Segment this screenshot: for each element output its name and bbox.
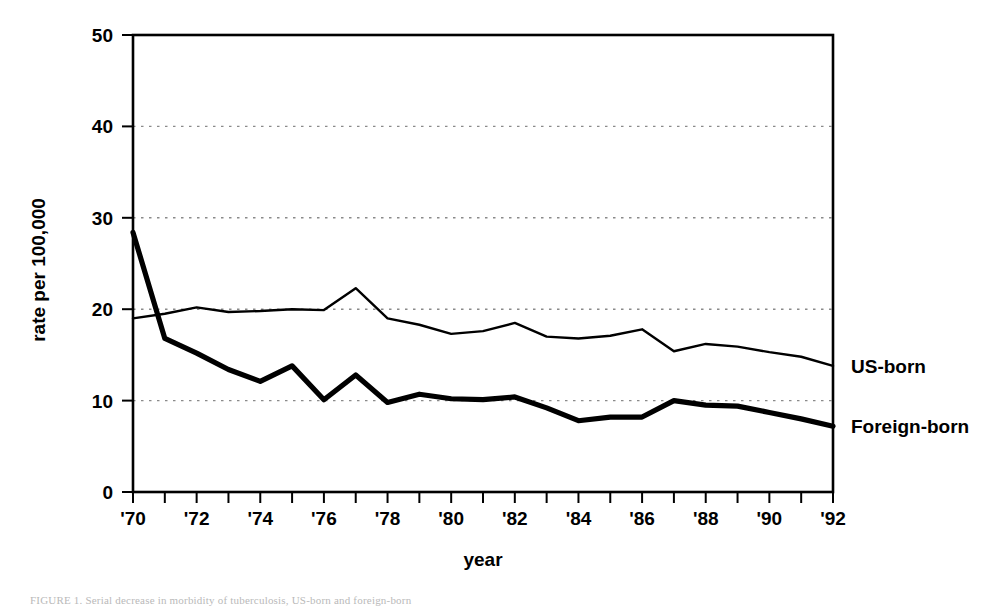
y-tick-label: 10 [92,391,113,412]
x-tick-label: '76 [311,508,337,529]
x-axis-ticks [133,492,833,503]
line-chart: '70'72'74'76'78'80'82'84'86'88'90'92 010… [0,0,995,607]
y-axis-tick-labels: 01020304050 [92,25,113,503]
x-tick-label: '78 [375,508,401,529]
x-tick-label: '80 [438,508,464,529]
y-tick-label: 20 [92,299,113,320]
series-line-us-born [133,288,833,366]
x-axis-title: year [463,549,503,570]
x-axis-tick-labels: '70'72'74'76'78'80'82'84'86'88'90'92 [120,508,846,529]
series-line-foreign-born [133,232,833,426]
figure-caption: FIGURE 1. Serial decrease in morbidity o… [30,594,970,606]
x-tick-label: '74 [247,508,273,529]
x-tick-label: '84 [566,508,592,529]
y-tick-label: 40 [92,116,113,137]
gridlines [133,126,833,400]
x-tick-label: '90 [757,508,783,529]
y-tick-label: 50 [92,25,113,46]
y-axis-title: rate per 100,000 [28,198,49,342]
series-inline-labels: US-bornForeign-born [851,356,969,437]
data-series [133,232,833,426]
series-label-us-born: US-born [851,356,926,377]
x-tick-label: '70 [120,508,146,529]
x-tick-label: '72 [184,508,210,529]
plot-frame [133,35,833,492]
x-tick-label: '88 [693,508,719,529]
y-tick-label: 30 [92,208,113,229]
x-tick-label: '82 [502,508,528,529]
x-tick-label: '86 [629,508,655,529]
x-tick-label: '92 [820,508,846,529]
figure-container: '70'72'74'76'78'80'82'84'86'88'90'92 010… [0,0,995,607]
y-axis-ticks [122,35,133,492]
series-label-foreign-born: Foreign-born [851,416,969,437]
plot-border [133,35,833,492]
y-tick-label: 0 [102,482,113,503]
